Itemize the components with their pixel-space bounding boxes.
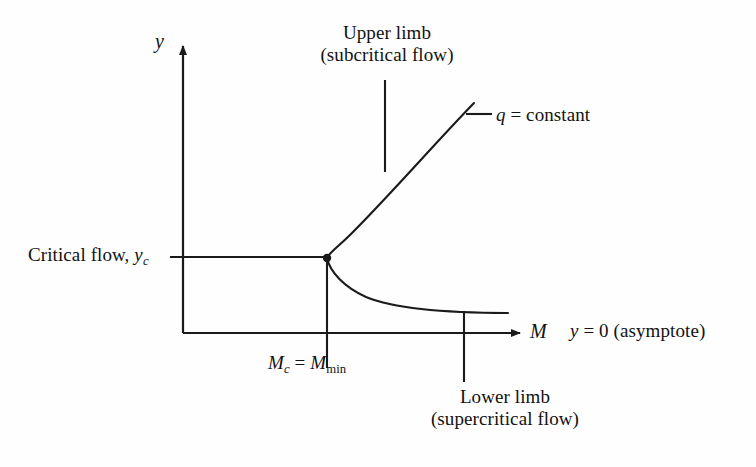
asymptote-annotation: y = 0 (asymptote)	[570, 320, 705, 342]
lower-limb-line-1: Lower limb	[390, 386, 620, 408]
specific-momentum-diagram: y M Upper limb (subcritical flow) q = co…	[0, 0, 756, 467]
lower-limb-line-2: (supercritical flow)	[390, 408, 620, 430]
upper-limb-annotation: Upper limb (subcritical flow)	[272, 22, 502, 67]
upper-limb-line-2: (subcritical flow)	[272, 44, 502, 66]
mmin-subscript: min	[326, 362, 346, 376]
critical-flow-subscript: c	[143, 254, 149, 268]
diagram-canvas	[0, 0, 756, 467]
mc-m-symbol: M	[268, 352, 284, 373]
upper-limb-line-1: Upper limb	[272, 22, 502, 44]
asymptote-y-symbol: y	[570, 320, 579, 341]
specific-momentum-curve	[327, 103, 508, 313]
critical-flow-text: Critical flow,	[28, 244, 134, 265]
q-constant-rest: = constant	[506, 104, 591, 125]
y-axis-label: y	[155, 30, 164, 54]
asymptote-rest: = 0 (asymptote)	[579, 320, 706, 341]
mmin-m-symbol: M	[310, 352, 326, 373]
x-axis-label: M	[530, 320, 547, 344]
mc-equals: =	[290, 352, 311, 373]
critical-flow-annotation: Critical flow, yc	[28, 244, 149, 269]
q-symbol: q	[496, 104, 506, 125]
y-axis-label-text: y	[155, 30, 164, 52]
critical-flow-y-symbol: y	[134, 244, 143, 265]
q-constant-annotation: q = constant	[496, 104, 590, 126]
mc-mmin-annotation: Mc = Mmin	[268, 352, 346, 377]
lower-limb-annotation: Lower limb (supercritical flow)	[390, 386, 620, 431]
x-axis-label-text: M	[530, 320, 547, 342]
